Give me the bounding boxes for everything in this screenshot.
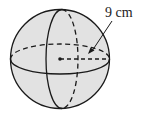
center-point [58,57,62,61]
radius-label: 9 cm [105,5,133,21]
